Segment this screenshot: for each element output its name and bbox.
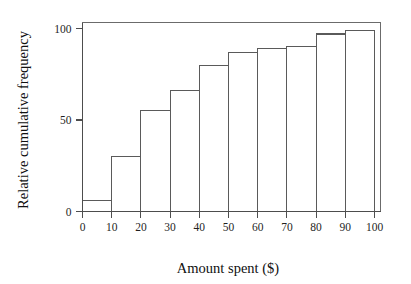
x-tick-label: 40 bbox=[194, 221, 206, 233]
histogram-bar bbox=[170, 91, 199, 212]
x-tick-label: 0 bbox=[80, 221, 86, 233]
x-axis-title: Amount spent ($) bbox=[177, 260, 279, 277]
histogram-bar bbox=[112, 157, 141, 212]
histogram-bar bbox=[141, 111, 170, 212]
histogram-bar bbox=[83, 201, 112, 212]
x-tick-label: 20 bbox=[135, 221, 147, 233]
x-tick-label: 100 bbox=[366, 221, 384, 233]
x-tick-label: 30 bbox=[164, 221, 176, 233]
chart-canvas: 0102030405060708090100 050100 Amount spe… bbox=[0, 0, 411, 284]
histogram-bar bbox=[287, 47, 316, 212]
x-tick-label: 70 bbox=[281, 221, 293, 233]
x-tick-label: 50 bbox=[223, 221, 235, 233]
y-tick-label: 0 bbox=[66, 206, 72, 218]
y-tick-label: 50 bbox=[60, 114, 72, 126]
histogram-bar bbox=[258, 49, 287, 212]
y-tick-label: 100 bbox=[54, 23, 72, 35]
histogram-bar bbox=[229, 52, 258, 211]
y-axis-title: Relative cumulative frequency bbox=[15, 30, 31, 209]
cumulative-frequency-chart: 0102030405060708090100 050100 Amount spe… bbox=[0, 0, 411, 284]
histogram-bar bbox=[316, 34, 345, 212]
histogram-bar bbox=[199, 65, 228, 211]
histogram-bar bbox=[345, 30, 374, 211]
x-tick-label: 60 bbox=[252, 221, 264, 233]
x-tick-label: 90 bbox=[340, 221, 352, 233]
x-tick-label: 80 bbox=[310, 221, 322, 233]
x-tick-label: 10 bbox=[106, 221, 118, 233]
